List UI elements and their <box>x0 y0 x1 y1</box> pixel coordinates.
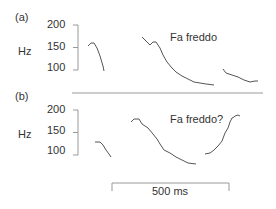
panel-b-ytick-150: 150 <box>47 124 65 136</box>
time-scale-bar: 500 ms <box>112 183 229 197</box>
panel-a-ylabel: Hz <box>18 45 31 57</box>
intonation-figure: (a) 200 150 100 Hz Fa freddo (b) 200 150… <box>0 0 276 209</box>
panel-a-y-axis <box>73 25 78 70</box>
panel-b-y-axis <box>73 110 78 155</box>
panel-a-contour-1 <box>88 43 104 71</box>
panel-b: (b) 200 150 100 Hz Fa freddo? <box>15 90 240 164</box>
panel-b-ylabel: Hz <box>18 128 31 140</box>
panel-a-ytick-150: 150 <box>47 40 65 52</box>
panel-a-ytick-200: 200 <box>47 18 65 30</box>
panel-b-label: (b) <box>15 90 28 102</box>
panel-b-contour-2 <box>131 119 196 164</box>
panel-b-ytick-100: 100 <box>47 144 65 156</box>
panel-b-contour-1 <box>95 142 111 157</box>
panel-b-annotation: Fa freddo? <box>170 113 223 125</box>
panel-a-ytick-100: 100 <box>47 61 65 73</box>
panel-b-ytick-200: 200 <box>47 103 65 115</box>
panel-a-contour-2 <box>142 37 214 85</box>
panel-a: (a) 200 150 100 Hz Fa freddo <box>15 11 258 85</box>
panel-a-annotation: Fa freddo <box>170 31 217 43</box>
scale-bar-label: 500 ms <box>152 185 189 197</box>
panel-a-contour-3 <box>223 69 258 82</box>
panel-a-label: (a) <box>15 11 28 23</box>
